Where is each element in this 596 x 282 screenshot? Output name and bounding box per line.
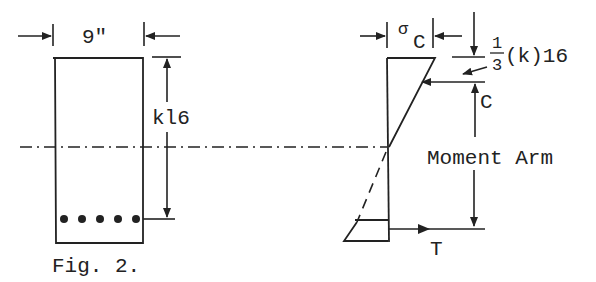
rebar-row — [60, 215, 140, 223]
figure-canvas: 9" kl6 Fig. 2. σ — [0, 0, 596, 282]
rebar — [96, 215, 104, 223]
beam-section: 9" kl6 Fig. 2. — [18, 22, 190, 278]
stress-sub-label: C — [413, 31, 426, 54]
lever-dimension — [452, 12, 487, 137]
rebar — [114, 215, 122, 223]
tension-block — [344, 220, 389, 241]
stress-width-dimension — [360, 18, 462, 48]
compression-triangle — [387, 58, 435, 147]
lever-fraction-denominator: 3 — [492, 56, 502, 75]
lever-suffix-label: (k)16 — [505, 45, 568, 68]
stress-face-line — [387, 58, 389, 242]
rebar — [78, 215, 86, 223]
beam-rectangle — [53, 58, 143, 243]
lever-fraction-numerator: 1 — [492, 34, 502, 53]
tension-arrowhead — [418, 224, 430, 234]
moment-arm-label: Moment Arm — [427, 147, 553, 170]
beam-outline — [55, 58, 144, 100]
rebar — [132, 215, 140, 223]
width-label: 9" — [82, 26, 107, 49]
strain-extension-dashed — [357, 152, 386, 222]
stress-sigma-label: σ — [398, 20, 409, 39]
compression-label: C — [480, 91, 493, 114]
stress-diagram: σ C 1 3 (k)16 C Moment Arm T — [344, 12, 568, 261]
depth-dimension — [143, 57, 181, 219]
tension-label: T — [430, 238, 443, 261]
figure-caption: Fig. 2. — [52, 255, 140, 278]
rebar — [60, 215, 68, 223]
depth-label: kl6 — [152, 107, 190, 130]
